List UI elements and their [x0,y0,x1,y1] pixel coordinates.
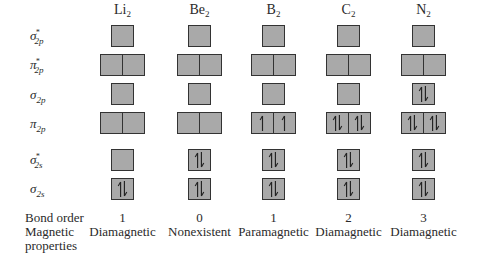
orbital-label-s2p-star: σ*2p [30,29,70,46]
orbital-label-s2s-star: σ*2s [30,153,70,170]
paired-electrons-icon [327,113,348,133]
paired-electrons-icon [338,179,359,199]
orbital-box-c2-s2p-star [337,25,360,47]
bond-order-value: 3 [386,211,462,225]
orbital-box-n2-s2s-star [412,149,435,171]
orbital-box-b2-s2p-star [262,25,285,47]
empty-orbital [189,26,210,46]
orbital-box-li2-s2s-star [111,149,134,171]
orbital-box-be2-p2p-star [177,54,222,76]
empty-orbital [112,26,133,46]
orbital-box-c2-s2s-star [337,149,360,171]
empty-orbital [402,55,423,75]
molecule-header-be2: Be2 [170,2,230,19]
paired-electrons-icon [413,179,434,199]
molecule-header-b2: B2 [244,2,304,19]
bond-order-value: 1 [236,211,312,225]
empty-orbital [122,113,144,133]
magnetic-property-value: Diamagnetic [386,225,462,239]
orbital-box-li2-p2p [100,112,145,134]
orbital-box-b2-s2p [262,83,285,105]
empty-orbital [189,84,210,104]
orbital-label-s2p: σ2p [30,88,70,105]
empty-orbital [178,113,199,133]
paired-electrons-icon [348,113,370,133]
orbital-box-be2-s2p-star [188,25,211,47]
magnetic-label: Magnetic properties [25,225,77,253]
orbital-box-b2-p2p-star [251,54,296,76]
orbital-box-n2-p2p [401,112,446,134]
orbital-box-li2-s2s [111,178,134,200]
orbital-box-b2-p2p [251,112,296,134]
orbital-label-s2s: σ2s [30,182,70,199]
orbital-box-be2-s2s [188,178,211,200]
empty-orbital [273,55,295,75]
paired-electrons-icon [189,179,210,199]
paired-electrons-icon [189,150,210,170]
empty-orbital [112,84,133,104]
orbital-box-be2-p2p [177,112,222,134]
paired-electrons-icon [413,84,434,104]
orbital-box-n2-p2p-star [401,54,446,76]
orbital-box-li2-s2p-star [111,25,134,47]
magnetic-property-value: Nonexistent [162,225,238,239]
bond-order-value: 1 [85,211,161,225]
empty-orbital [338,26,359,46]
orbital-box-c2-p2p-star [326,54,371,76]
empty-orbital [101,113,122,133]
paired-electrons-icon [112,179,133,199]
empty-orbital [413,26,434,46]
empty-orbital [252,55,273,75]
orbital-box-b2-s2s-star [262,149,285,171]
paired-electrons-icon [413,150,434,170]
orbital-box-n2-s2p [412,83,435,105]
paired-electrons-icon [423,113,445,133]
paired-electrons-icon [263,150,284,170]
orbital-box-be2-s2s-star [188,149,211,171]
empty-orbital [263,84,284,104]
orbital-box-n2-s2s [412,178,435,200]
empty-orbital [338,84,359,104]
paired-electrons-icon [402,113,423,133]
bond-order-value: 0 [162,211,238,225]
orbital-box-b2-s2s [262,178,285,200]
empty-orbital [423,55,445,75]
orbital-box-li2-p2p-star [100,54,145,76]
bond-order-label: Bond order [25,211,84,225]
orbital-label-p2p: π2p [30,117,70,134]
empty-orbital [348,55,370,75]
molecule-header-n2: N2 [394,2,454,19]
paired-electrons-icon [263,179,284,199]
empty-orbital [199,55,221,75]
empty-orbital [101,55,122,75]
molecule-header-li2: Li2 [93,2,153,19]
empty-orbital [263,26,284,46]
unpaired-electron-icon [273,113,295,133]
orbital-box-c2-s2s [337,178,360,200]
orbital-label-p2p-star: π*2p [30,58,70,75]
molecule-header-c2: C2 [319,2,379,19]
magnetic-property-value: Diamagnetic [85,225,161,239]
paired-electrons-icon [338,150,359,170]
orbital-box-c2-p2p [326,112,371,134]
magnetic-property-value: Paramagnetic [236,225,312,239]
orbital-box-n2-s2p-star [412,25,435,47]
orbital-box-c2-s2p [337,83,360,105]
magnetic-property-value: Diamagnetic [311,225,387,239]
empty-orbital [199,113,221,133]
orbital-box-li2-s2p [111,83,134,105]
orbital-box-be2-s2p [188,83,211,105]
empty-orbital [327,55,348,75]
bond-order-value: 2 [311,211,387,225]
empty-orbital [112,150,133,170]
empty-orbital [178,55,199,75]
unpaired-electron-icon [252,113,273,133]
empty-orbital [122,55,144,75]
